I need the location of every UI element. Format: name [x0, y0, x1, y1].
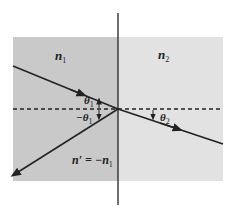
refraction-diagram: n1 n2 θ1 −θ1 θ2 n′ = −n1	[0, 0, 233, 214]
label-n-prime: n′ = −n1	[72, 153, 113, 169]
